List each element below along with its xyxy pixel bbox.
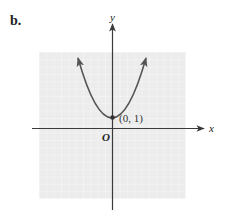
graph: y x O (0, 1) (0, 0, 226, 217)
vertex-label: (0, 1) (119, 112, 143, 125)
vertex-point (110, 115, 115, 120)
x-axis-label: x (208, 122, 214, 134)
origin-label: O (102, 131, 110, 143)
y-axis-label: y (109, 11, 115, 23)
